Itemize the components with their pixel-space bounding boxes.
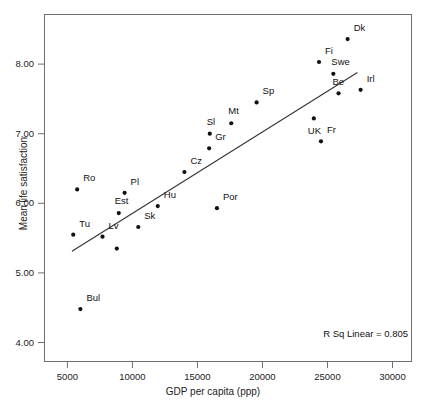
data-point-label: Sl [207, 116, 215, 127]
data-point-label: Cz [190, 155, 202, 166]
data-point-label: Gr [215, 131, 226, 142]
data-point-label: Lv [109, 220, 119, 231]
data-point-label: Pl [131, 176, 139, 187]
data-point-label: Sk [144, 210, 155, 221]
data-point-label: Est [115, 195, 129, 206]
data-point-label: Tu [79, 218, 90, 229]
data-point-label: Fr [327, 124, 336, 135]
data-point-label: Ro [83, 172, 95, 183]
data-point-label: Be [333, 76, 345, 87]
y-tick-label: 4.00 [0, 337, 34, 348]
data-point-label: Por [223, 191, 238, 202]
x-tick-label: 10000 [102, 371, 162, 382]
y-tick-label: 5.00 [0, 267, 34, 278]
x-tick-label: 30000 [362, 371, 422, 382]
data-point-label: Hu [164, 189, 176, 200]
x-tick-label: 5000 [37, 371, 97, 382]
x-tick-label: 15000 [167, 371, 227, 382]
data-point-label: Dk [354, 22, 366, 33]
data-point-label: Bul [86, 292, 100, 303]
y-axis-title: Mean life satisfaction [18, 109, 29, 259]
data-point-label: UK [308, 125, 321, 136]
data-point-label: Irl [367, 73, 375, 84]
x-axis-title: GDP per capita (ppp) [0, 386, 426, 397]
data-point-label: Fi [325, 45, 333, 56]
data-point-label: Sp [263, 85, 275, 96]
data-point-label: Swe [331, 56, 349, 67]
x-tick-label: 25000 [297, 371, 357, 382]
x-tick-label: 20000 [232, 371, 292, 382]
plot-area [44, 14, 412, 362]
scatter-chart: 4.005.006.007.008.0050001000015000200002… [0, 0, 426, 407]
y-tick-label: 8.00 [0, 58, 34, 69]
x-axis-ticks [67, 362, 392, 368]
r-squared-annotation: R Sq Linear = 0.805 [323, 328, 408, 339]
data-point-label: Mt [228, 105, 239, 116]
